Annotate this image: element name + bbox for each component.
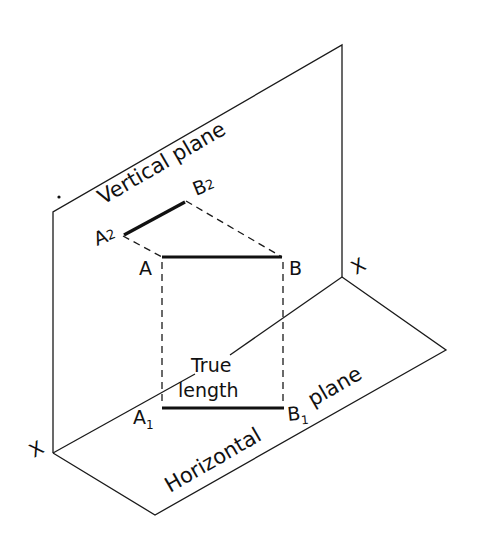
point-label-b: B [289,257,302,279]
projector-a2-a [123,236,162,257]
point-label-a: A [139,257,152,279]
stray-dot [57,195,60,198]
horizontal-plane-outline [53,277,446,515]
orthographic-projection-diagram: Vertical plane Horizontal plane X X A2 B… [0,0,477,545]
horizontal-plane-label-suffix: plane [304,361,366,411]
line-segments [124,202,284,408]
projector-b2-b [186,201,282,257]
true-length-label-line1: True [190,354,231,376]
x-axis-label-right: X [347,253,369,279]
x-axis-label-left: X [25,436,47,462]
vertical-plane-label: Vertical plane [94,117,230,210]
point-label-a1: A1 [133,406,154,432]
point-label-b1: B1 [286,401,309,429]
point-label-b2: B2 [189,171,217,199]
x-axis-segment-right [230,277,342,355]
true-length-label-line2: length [178,379,239,401]
horizontal-plane-label: Horizontal [161,423,266,497]
point-label-a2: A2 [90,221,118,249]
segment-a2-b2 [124,202,185,235]
x-axis-segment-left [53,374,195,453]
